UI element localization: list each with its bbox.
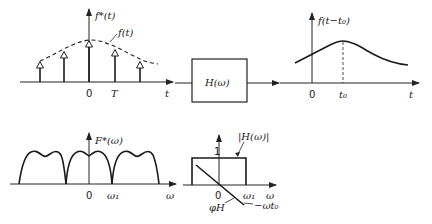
omega-axis-label: ω bbox=[166, 190, 174, 201]
tick-omega1: ω₁ bbox=[107, 190, 119, 201]
level-one-label: 1 bbox=[214, 146, 220, 157]
f-star-t-label: f*(t) bbox=[94, 10, 116, 21]
t-axis-label: t bbox=[165, 88, 170, 99]
t-axis-output-label: t bbox=[409, 89, 414, 100]
diagram-canvas: f*(t) f(t) 0 T t H(ω) f(t−t₀) 0 t₀ t F*(… bbox=[0, 0, 432, 224]
filter-block: H(ω) bbox=[175, 59, 279, 102]
envelope-curve bbox=[40, 40, 158, 64]
F-star-omega-label: F*(ω) bbox=[94, 135, 123, 146]
f-t-label: f(t) bbox=[117, 27, 134, 38]
phase-expr-leader bbox=[244, 203, 253, 204]
phi-H-label: φH bbox=[209, 202, 225, 213]
tick-zero: 0 bbox=[86, 88, 92, 99]
tick-zero-output: 0 bbox=[309, 89, 315, 100]
magnitude-leader bbox=[238, 142, 244, 154]
f-t-minus-t0-label: f(t−t₀) bbox=[317, 15, 350, 26]
minus-omega-t0-label: −ωt₀ bbox=[254, 200, 279, 211]
spectrum-lobe-right bbox=[112, 151, 159, 184]
tick-zero-filter: 0 bbox=[215, 190, 221, 201]
tick-zero-spectrum: 0 bbox=[86, 190, 92, 201]
envelope-leader bbox=[110, 34, 117, 42]
sampled-signal-plot: f*(t) f(t) 0 T t bbox=[20, 9, 173, 99]
delayed-output-plot: f(t−t₀) 0 t₀ t bbox=[280, 13, 419, 100]
filter-label: H(ω) bbox=[204, 77, 230, 88]
tick-t0: t₀ bbox=[339, 89, 347, 100]
magnitude-leader-arrowhead bbox=[235, 152, 240, 157]
spectrum-lobe-left bbox=[19, 151, 66, 184]
magnitude-H-label: |H(ω)| bbox=[238, 131, 269, 143]
tick-T: T bbox=[111, 88, 119, 99]
phase-leader bbox=[225, 198, 234, 203]
impulse-samples bbox=[37, 41, 144, 83]
filter-response-plot: 1 |H(ω)| 0 ω₁ ω φH −ωt₀ bbox=[183, 131, 279, 213]
sampled-spectrum-plot: F*(ω) 0 ω₁ ω bbox=[10, 133, 176, 201]
